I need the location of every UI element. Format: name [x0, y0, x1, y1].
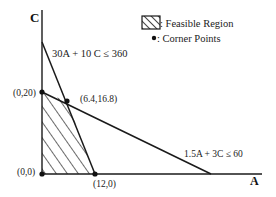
corner-point-12-0 — [92, 171, 97, 176]
legend-hatch-swatch — [142, 16, 160, 29]
feasible-region-diagram: C A 30A + 10 C ≤ 360 1.5A + 3C ≤ 60 (0,2… — [0, 0, 276, 197]
corner-point-origin — [39, 171, 44, 176]
legend-feasible-label: : Feasible Region — [160, 18, 234, 29]
corner-label-12-0: (12,0) — [93, 179, 116, 190]
legend-corner-dot-icon — [152, 36, 156, 40]
corner-point-6.4-16.8 — [64, 98, 69, 103]
corner-point-0-20 — [39, 89, 44, 94]
constraint-label-2: 1.5A + 3C ≤ 60 — [184, 149, 243, 159]
diagram-canvas: C A 30A + 10 C ≤ 360 1.5A + 3C ≤ 60 (0,2… — [0, 0, 276, 197]
corner-label-0-20: (0,20) — [13, 88, 36, 99]
x-axis-label: A — [250, 174, 259, 188]
y-axis-label: C — [30, 10, 39, 25]
corner-label-origin: (0,0) — [17, 167, 35, 178]
constraint-label-1: 30A + 10 C ≤ 360 — [52, 48, 128, 59]
corner-label-6.4-16.8: (6.4,16.8) — [80, 94, 117, 105]
legend-corner-label: : Corner Points — [157, 33, 221, 44]
